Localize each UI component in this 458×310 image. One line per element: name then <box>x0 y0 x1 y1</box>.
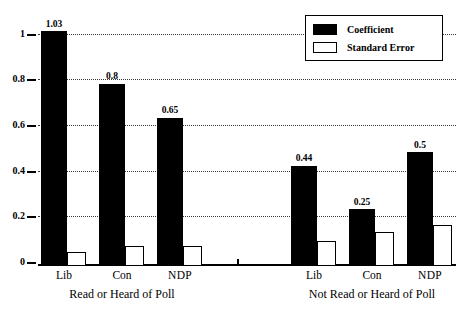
bar-value-label: 1.03 <box>46 20 63 30</box>
bar-value-label: 0.65 <box>162 106 179 116</box>
bar-coefficient-g2-con: 0.25 <box>349 209 375 266</box>
bar-chart: 1 0.8 0.6 0.4 0.2 0 1.03 <box>0 0 458 310</box>
bar-value-label: 0.25 <box>354 198 371 208</box>
legend-label-coefficient: Coefficient <box>347 25 394 35</box>
ytick-mark-06 <box>27 125 36 127</box>
bar-stderr-g1-con <box>125 246 144 267</box>
ytick-mark-0 <box>27 262 36 264</box>
bar-coefficient-g1-ndp: 0.65 <box>157 118 183 266</box>
ytick-label-04: 0.4 <box>13 166 26 176</box>
ytick-label-0: 0 <box>20 257 25 267</box>
legend-swatch-coefficient-icon <box>313 24 337 35</box>
ytick-mark-02 <box>27 216 36 218</box>
category-label-g2-con: Con <box>362 270 381 282</box>
ytick-label-08: 0.8 <box>13 74 26 84</box>
bar-stderr-g2-ndp <box>433 225 452 266</box>
bar-value-label: 0.8 <box>106 72 118 82</box>
group-label-not-read: Not Read or Heard of Poll <box>309 288 435 300</box>
bar-coefficient-g1-lib: 1.03 <box>41 31 67 266</box>
bar-stderr-g1-lib <box>67 252 86 266</box>
category-label-g2-ndp: NDP <box>418 270 442 282</box>
category-label-g1-con: Con <box>112 270 131 282</box>
ytick-mark-04 <box>27 171 36 173</box>
bar-coefficient-g2-lib: 0.44 <box>291 166 317 266</box>
group-label-read: Read or Heard of Poll <box>69 288 174 300</box>
gridline-08 <box>38 79 456 80</box>
bar-coefficient-g2-ndp: 0.5 <box>407 152 433 266</box>
category-label-g1-lib: Lib <box>56 270 72 282</box>
ytick-label-06: 0.6 <box>13 120 26 130</box>
bar-value-label: 0.5 <box>414 141 426 151</box>
ytick-label-1: 1 <box>20 29 25 39</box>
category-label-g2-lib: Lib <box>306 270 322 282</box>
group-separator-tick <box>237 259 239 266</box>
legend-swatch-standard-error-icon <box>313 42 337 53</box>
ytick-mark-1 <box>27 34 36 36</box>
legend-item-standard-error: Standard Error <box>313 39 435 56</box>
bar-stderr-g2-con <box>375 232 394 266</box>
category-label-g1-ndp: NDP <box>168 270 192 282</box>
legend-label-standard-error: Standard Error <box>347 43 414 53</box>
bar-value-label: 0.44 <box>296 154 313 164</box>
ytick-label-02: 0.2 <box>13 211 26 221</box>
ytick-mark-08 <box>27 79 36 81</box>
bar-coefficient-g1-con: 0.8 <box>99 84 125 266</box>
bar-stderr-g2-lib <box>317 241 336 266</box>
legend-item-coefficient: Coefficient <box>313 21 435 38</box>
bar-stderr-g1-ndp <box>183 246 202 267</box>
chart-legend: Coefficient Standard Error <box>305 15 443 61</box>
